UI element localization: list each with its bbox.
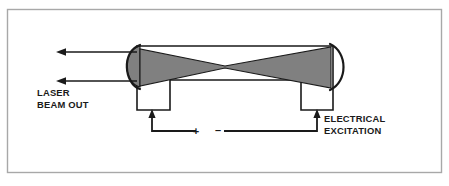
laser-diagram-figure: LASER BEAM OUT + – ELECTRICAL EXCITATION (0, 0, 449, 186)
electrical-excitation-label-line2: EXCITATION (324, 125, 381, 136)
figure-border (8, 10, 442, 173)
polarity-positive-symbol: + (193, 125, 199, 137)
polarity-negative-symbol: – (215, 124, 221, 136)
laser-output-label-line1: LASER (37, 87, 70, 98)
electrical-excitation-label-line1: ELECTRICAL (324, 113, 385, 124)
laser-cavity-diagram: LASER BEAM OUT + – ELECTRICAL EXCITATION (0, 0, 449, 186)
laser-output-label-line2: BEAM OUT (37, 99, 89, 110)
